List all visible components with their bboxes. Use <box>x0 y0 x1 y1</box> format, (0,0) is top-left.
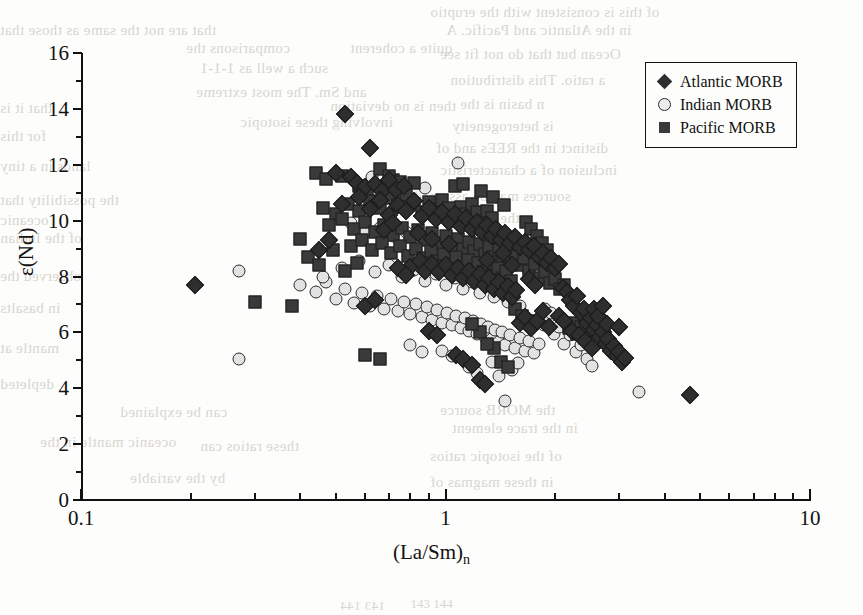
point-pacific-morb <box>313 259 326 272</box>
point-pacific-morb <box>498 199 511 212</box>
open-circle-icon <box>655 98 673 111</box>
y-tick-major <box>73 387 82 389</box>
legend-item-pacific-morb[interactable]: Pacific MORB <box>655 116 783 139</box>
point-atlantic-morb <box>361 139 379 157</box>
point-pacific-morb <box>474 185 487 198</box>
y-tick-major <box>73 108 82 110</box>
x-tick-minor <box>409 493 411 500</box>
x-tick-minor <box>774 493 776 500</box>
y-tick-major <box>73 276 82 278</box>
y-tick-minor <box>76 415 82 417</box>
y-tick-label: 4 <box>59 378 70 399</box>
point-indian-morb <box>338 283 351 296</box>
y-tick-major <box>73 220 82 222</box>
y-tick-minor <box>76 192 82 194</box>
point-indian-morb <box>398 295 411 308</box>
y-tick-minor <box>76 136 82 138</box>
x-tick-minor <box>664 493 666 500</box>
show-through-text: lands in a tiny <box>0 158 91 175</box>
show-through-text: for this <box>0 128 46 145</box>
legend-label: Indian MORB <box>680 96 772 114</box>
point-atlantic-morb <box>336 105 354 123</box>
x-tick-minor <box>388 493 390 500</box>
x-axis-title-subscript: n <box>463 552 470 567</box>
point-pacific-morb <box>358 348 371 361</box>
legend: Atlantic MORB Indian MORB Pacific MORB <box>645 62 797 148</box>
x-tick-minor <box>728 493 730 500</box>
x-tick-minor <box>364 493 366 500</box>
x-tick-minor <box>699 493 701 500</box>
show-through-text: in the Atlantic and Pacific. A <box>446 22 631 39</box>
x-tick-label: 1 <box>440 508 451 529</box>
y-tick-label: 2 <box>59 434 70 455</box>
x-tick-minor <box>299 493 301 500</box>
point-indian-morb <box>294 278 307 291</box>
x-tick-major <box>809 489 811 500</box>
y-tick-label: 8 <box>59 266 70 287</box>
point-pacific-morb <box>323 218 336 231</box>
point-indian-morb <box>532 337 545 350</box>
show-through-text: mantle at <box>0 340 59 357</box>
y-tick-major <box>73 331 82 333</box>
show-through-text: that are not the same as those that <box>0 22 216 39</box>
y-tick-minor <box>76 471 82 473</box>
x-tick-minor <box>792 493 794 500</box>
y-tick-label: 6 <box>59 322 70 343</box>
figure-root: of this is consistent with the eruptioin… <box>0 0 863 615</box>
x-tick-minor <box>335 493 337 500</box>
x-tick-minor <box>428 493 430 500</box>
x-tick-label: 10 <box>800 508 821 529</box>
x-tick-minor <box>254 493 256 500</box>
legend-item-atlantic-morb[interactable]: Atlantic MORB <box>655 70 783 93</box>
y-tick-minor <box>76 248 82 250</box>
point-indian-morb <box>385 292 398 305</box>
point-indian-morb <box>633 386 646 399</box>
x-tick-minor <box>554 493 556 500</box>
point-pacific-morb <box>294 232 307 245</box>
point-indian-morb <box>233 264 246 277</box>
point-pacific-morb <box>465 317 478 330</box>
point-atlantic-morb <box>185 276 203 294</box>
y-tick-major <box>73 443 82 445</box>
y-tick-minor <box>76 303 82 305</box>
x-tick-minor <box>618 493 620 500</box>
point-pacific-morb <box>457 178 470 191</box>
show-through-text: in basalts <box>0 300 60 317</box>
show-through-text: that it is <box>0 100 52 117</box>
y-tick-major <box>73 52 82 54</box>
legend-label: Pacific MORB <box>680 119 776 137</box>
point-indian-morb <box>419 182 432 195</box>
point-pacific-morb <box>373 352 386 365</box>
filled-square-icon <box>655 122 673 133</box>
point-indian-morb <box>585 359 598 372</box>
caption-show-through: 143 144 <box>0 596 863 612</box>
point-indian-morb <box>415 345 428 358</box>
x-axis-title: (La/Sm)n <box>0 540 863 568</box>
show-through-text: of the Indian <box>0 230 82 247</box>
point-pacific-morb <box>316 202 329 215</box>
y-tick-label: 12 <box>48 154 69 175</box>
x-tick-major <box>445 489 447 500</box>
y-axis-title: ε(Nd) <box>14 228 39 276</box>
legend-item-indian-morb[interactable]: Indian MORB <box>655 93 783 116</box>
point-pacific-morb <box>286 299 299 312</box>
point-pacific-morb <box>248 295 261 308</box>
y-tick-minor <box>76 359 82 361</box>
point-pacific-morb <box>481 337 494 350</box>
point-indian-morb <box>451 157 464 170</box>
y-tick-label: 16 <box>48 43 69 64</box>
y-tick-minor <box>76 80 82 82</box>
point-atlantic-morb <box>681 386 699 404</box>
point-indian-morb <box>499 394 512 407</box>
y-tick-label: 10 <box>48 210 69 231</box>
legend-label: Atlantic MORB <box>680 73 783 91</box>
y-tick-major <box>73 164 82 166</box>
x-tick-label: 0.1 <box>68 508 94 529</box>
point-indian-morb <box>309 285 322 298</box>
point-indian-morb <box>368 266 381 279</box>
show-through-text: oceanic <box>0 212 49 229</box>
x-tick-minor <box>753 493 755 500</box>
point-pacific-morb <box>501 361 514 374</box>
point-indian-morb <box>233 352 246 365</box>
y-tick-label: 14 <box>48 98 69 119</box>
